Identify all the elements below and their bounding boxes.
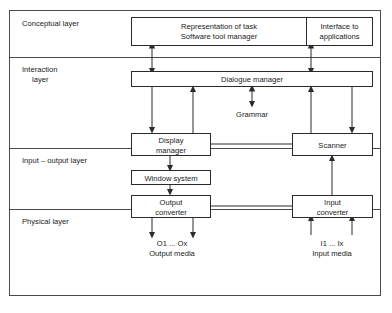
node-output-converter-line1: Output	[160, 198, 184, 207]
annotation-grammar: Grammar	[236, 110, 269, 119]
node-interface-to-applications-line2: applications	[319, 32, 359, 41]
node-input-converter-line2: converter	[317, 208, 349, 217]
node-dialogue-manager-label: Dialogue manager	[221, 75, 284, 84]
layer-label-interaction-line2: layer	[32, 75, 49, 84]
node-display-manager-line2: manager	[156, 146, 186, 155]
node-scanner-label: Scanner	[318, 141, 347, 150]
architecture-diagram-svg: Conceptual layer Interaction layer Input…	[0, 0, 392, 313]
node-window-system-label: Window system	[144, 174, 197, 183]
layer-label-physical: Physical layer	[22, 217, 69, 226]
node-interface-to-applications-line1: Interface to	[321, 22, 359, 31]
layer-label-interaction-line1: Interaction	[22, 65, 57, 74]
layer-label-conceptual: Conceptual layer	[22, 19, 79, 28]
annotation-input-media-items: I1 ... Ix	[321, 239, 344, 248]
annotation-input-media-caption: Input media	[312, 249, 352, 258]
node-representation-of-task-line1: Representation of task	[181, 22, 257, 31]
node-display-manager-line1: Display	[159, 136, 184, 145]
node-representation-of-task-line2: Software tool manager	[181, 32, 258, 41]
diagram-canvas: Conceptual layer Interaction layer Input…	[0, 0, 392, 313]
layer-label-input-output: Input – output layer	[22, 156, 87, 165]
annotation-output-media-items: O1 ... Ox	[157, 239, 188, 248]
annotation-output-media-caption: Output media	[149, 249, 195, 258]
node-input-converter-line1: Input	[324, 198, 342, 207]
node-output-converter-line2: converter	[155, 208, 187, 217]
